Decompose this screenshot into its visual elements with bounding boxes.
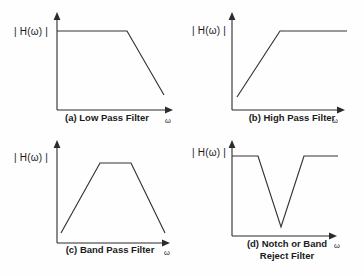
panel-low-pass-filter: | H(ω) | ω (a) Low Pass Filter xyxy=(0,0,182,138)
x-axis-arrow-icon xyxy=(165,107,173,114)
band-pass-response-curve xyxy=(61,163,165,233)
panel-caption: (c) Band Pass Filter xyxy=(50,244,170,256)
panel-band-pass-filter: | H(ω) | ω (c) Band Pass Filter xyxy=(0,138,182,276)
y-axis-arrow-icon xyxy=(229,140,236,148)
panel-caption: (d) Notch or Band Reject Filter xyxy=(222,238,352,262)
notch-response-curve xyxy=(232,156,338,227)
y-axis-label: | H(ω) | xyxy=(192,25,226,37)
y-axis-arrow-icon xyxy=(229,12,236,20)
x-axis-label: ω xyxy=(165,116,171,125)
low-pass-response-curve xyxy=(57,31,164,95)
y-axis-arrow-icon xyxy=(54,140,61,148)
panel-notch-band-reject-filter: | H(ω) | ω (d) Notch or Band Reject Filt… xyxy=(182,138,364,276)
y-axis-label: | H(ω) | xyxy=(14,26,48,38)
y-axis-label: | H(ω) | xyxy=(14,152,48,164)
panel-caption: (b) High Pass Filter xyxy=(232,112,352,124)
panel-high-pass-filter: | H(ω) | ω (b) High Pass Filter xyxy=(182,0,364,138)
y-axis-arrow-icon xyxy=(54,12,61,20)
filter-response-figure: | H(ω) | ω (a) Low Pass Filter | H(ω) | … xyxy=(0,0,364,276)
panel-caption: (a) Low Pass Filter xyxy=(52,112,162,124)
y-axis-label: | H(ω) | xyxy=(192,147,226,159)
high-pass-response-curve xyxy=(237,31,347,97)
